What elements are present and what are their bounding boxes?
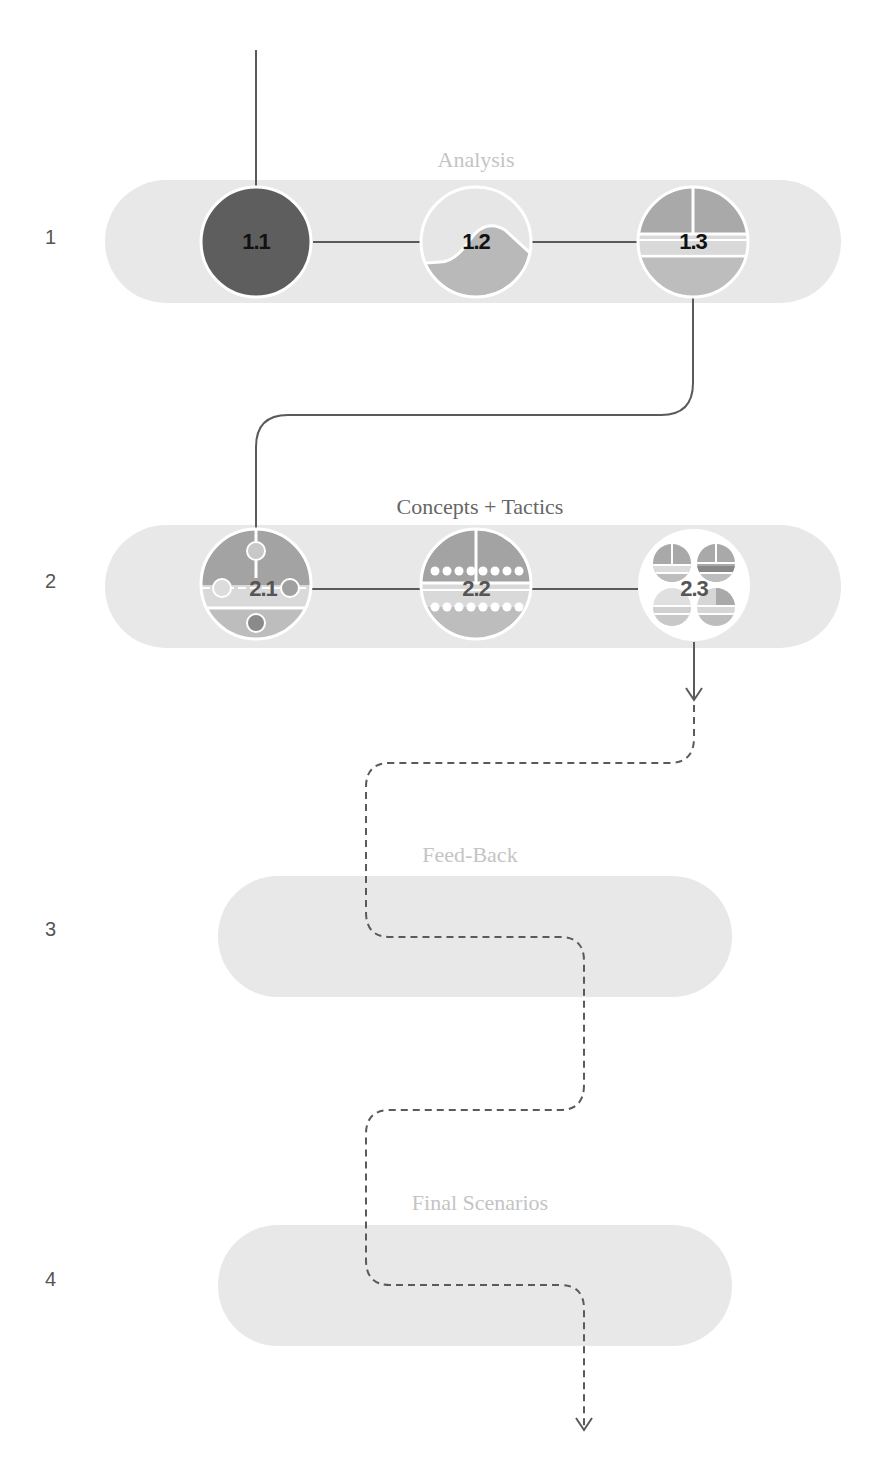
phase-number-4: 4 [45,1268,56,1291]
node-label-1-1: 1.1 [216,229,296,255]
phase-title-feedback: Feed-Back [370,842,570,868]
diagram-canvas [0,0,880,1482]
phase-number-2: 2 [45,570,56,593]
phase-title-final-scenarios: Final Scenarios [340,1190,620,1216]
process-diagram: 1 2 3 4 Analysis Concepts + Tactics Feed… [0,0,880,1482]
node-label-2-2: 2.2 [436,576,516,602]
node-label-1-3: 1.3 [653,229,733,255]
phase-number-1: 1 [45,226,56,249]
phase-title-analysis: Analysis [376,147,576,173]
phase-number-3: 3 [45,918,56,941]
phase-title-concepts-tactics: Concepts + Tactics [330,494,630,520]
node-label-2-3: 2.3 [654,576,734,602]
node-label-2-1: 2.1 [223,576,303,602]
node-label-1-2: 1.2 [436,229,516,255]
